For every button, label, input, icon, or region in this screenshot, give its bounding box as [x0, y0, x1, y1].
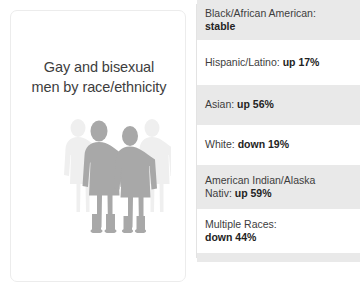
stat-label: Hispanic/Latino: — [205, 56, 280, 68]
stat-value: down 19% — [238, 138, 289, 150]
title-line-2: men by race/ethnicity — [17, 77, 181, 97]
stat-value: up 59% — [235, 187, 272, 199]
stat-value: up 17% — [283, 56, 320, 68]
page-title: Gay and bisexual men by race/ethnicity — [17, 57, 181, 97]
stat-label-line-2: Nativ: — [205, 187, 232, 199]
stat-row-black-african-american: Black/African American: stable — [197, 0, 360, 40]
male-silhouettes-icon — [59, 115, 171, 233]
stat-row-text: Black/African American: stable — [205, 7, 352, 34]
stat-row-multiple-races: Multiple Races: down 44% — [197, 209, 360, 253]
stat-value: down 44% — [205, 231, 256, 243]
stat-row-text: White: down 19% — [205, 138, 352, 152]
trailing-band — [197, 253, 360, 262]
title-line-1: Gay and bisexual — [17, 57, 181, 77]
stat-row-asian: Asian: up 56% — [197, 85, 360, 125]
stat-row-text: Multiple Races: down 44% — [205, 218, 352, 245]
stat-label: Multiple Races: — [205, 218, 277, 230]
title-card: Gay and bisexual men by race/ethnicity — [10, 10, 186, 282]
stat-value: stable — [205, 20, 235, 32]
stat-label: Asian: — [205, 98, 234, 110]
stat-row-text: Asian: up 56% — [205, 98, 352, 112]
stat-row-white: White: down 19% — [197, 125, 360, 165]
stat-label: Black/African American: — [205, 7, 316, 19]
stat-label: American Indian/Alaska — [205, 174, 315, 186]
stat-row-american-indian-alaska-native: American Indian/Alaska Nativ: up 59% — [197, 165, 360, 209]
stat-row-hispanic-latino: Hispanic/Latino: up 17% — [197, 40, 360, 85]
stat-label: White: — [205, 138, 235, 150]
stat-value: up 56% — [237, 98, 274, 110]
left-panel: Gay and bisexual men by race/ethnicity — [0, 0, 196, 262]
stat-row-text: American Indian/Alaska Nativ: up 59% — [205, 174, 352, 201]
stat-row-text: Hispanic/Latino: up 17% — [205, 56, 352, 70]
statistics-panel: Black/African American: stable Hispanic/… — [197, 0, 360, 262]
